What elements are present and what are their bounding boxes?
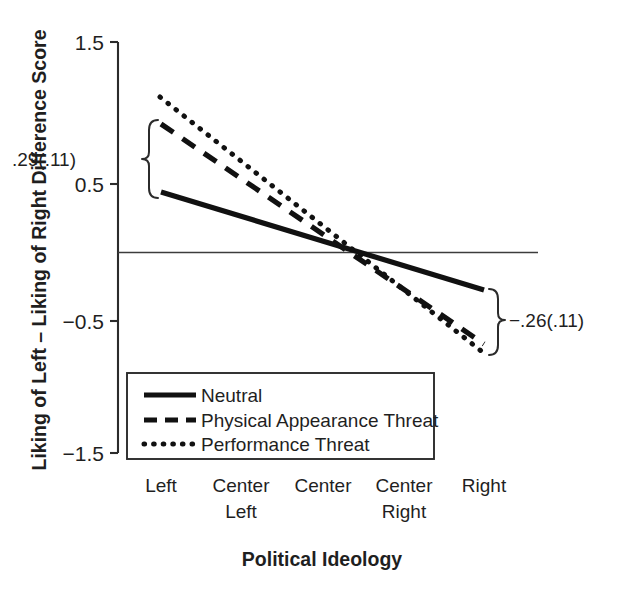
legend-label-physical-appearance-threat: Physical Appearance Threat [201, 410, 439, 431]
y-tick-label-3: −0.5 [63, 310, 104, 333]
right-gap-annotation-label: −.26(.11) [509, 310, 584, 331]
y-axis-title: Liking of Left – Liking of Right Differe… [28, 29, 50, 470]
legend-label-performance-threat: Performance Threat [201, 434, 370, 455]
chart-figure: 1.5 0.5 −0.5 −1.5 .29(.11) −.26(.11) Neu… [0, 0, 623, 592]
x-tick-label-center-right-line1: Center [375, 475, 433, 496]
x-tick-label-center-left-line2: Left [225, 501, 257, 522]
line-chart-svg: 1.5 0.5 −0.5 −1.5 .29(.11) −.26(.11) Neu… [0, 0, 623, 592]
y-tick-label-4: −1.5 [63, 442, 104, 465]
y-tick-label-2: 0.5 [75, 173, 104, 196]
legend-label-neutral: Neutral [201, 385, 262, 406]
x-tick-label-center-right-line2: Right [382, 501, 427, 522]
x-tick-label-center-left-line1: Center [212, 475, 270, 496]
x-tick-label-right-line1: Right [462, 475, 507, 496]
chart-background [0, 0, 623, 592]
x-tick-label-center-line1: Center [294, 475, 352, 496]
y-tick-label-1: 1.5 [75, 31, 104, 54]
x-axis-title: Political Ideology [242, 548, 403, 570]
x-tick-label-left-line1: Left [145, 475, 177, 496]
